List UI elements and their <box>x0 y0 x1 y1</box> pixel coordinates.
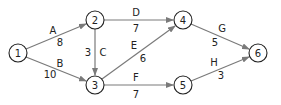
node-3-label: 3 <box>92 80 98 91</box>
node-5-label: 5 <box>180 80 186 91</box>
node-1: 1 <box>9 44 27 62</box>
edge-d-weight: 7 <box>133 23 139 34</box>
edge-g-weight: 5 <box>212 37 218 48</box>
edge-c-name: C <box>100 47 107 58</box>
edge-b-weight: 10 <box>44 69 57 80</box>
edge-a-weight: 8 <box>57 37 63 48</box>
node-3: 3 <box>86 76 104 94</box>
node-5: 5 <box>174 76 192 94</box>
edge-g-name: G <box>218 23 226 34</box>
edge-h-name: H <box>210 57 218 68</box>
edge-f-weight: 7 <box>133 89 139 100</box>
node-4-label: 4 <box>180 15 186 26</box>
network-diagram: A 8 B 10 C 3 D 7 E 6 F 7 G 5 H 3 1 2 3 4… <box>0 0 281 105</box>
edge-h-weight: 3 <box>218 70 224 81</box>
node-4: 4 <box>174 11 192 29</box>
node-1-label: 1 <box>15 48 21 59</box>
edge-b-name: B <box>57 58 64 69</box>
edge-c-weight: 3 <box>85 47 91 58</box>
edge-e-weight: 6 <box>140 53 146 64</box>
node-6: 6 <box>249 44 267 62</box>
edge-e-name: E <box>131 40 137 51</box>
node-2-label: 2 <box>92 15 98 26</box>
edge-a-name: A <box>50 25 57 36</box>
edge-d-name: D <box>132 7 140 18</box>
node-2: 2 <box>86 11 104 29</box>
node-6-label: 6 <box>255 48 261 59</box>
edge-f-name: F <box>133 72 139 83</box>
